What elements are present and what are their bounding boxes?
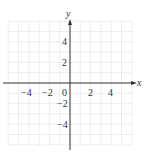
x-axis-label: x <box>136 77 142 88</box>
coordinate-grid: x y −4 −2 0 2 4 4 2 −2 −4 <box>0 0 146 153</box>
x-tick-0: 0 <box>62 87 67 98</box>
y-axis-arrow-icon <box>68 19 72 25</box>
y-tick-4: 4 <box>62 36 67 47</box>
x-tick-4: 4 <box>108 87 113 98</box>
y-tick-neg4: −4 <box>57 119 68 130</box>
y-axis-label: y <box>65 8 71 19</box>
x-tick-2: 2 <box>88 87 93 98</box>
y-tick-2: 2 <box>62 57 67 68</box>
y-tick-neg2: −2 <box>57 98 68 109</box>
x-tick-neg4: −4 <box>21 87 32 98</box>
x-tick-neg2: −2 <box>42 87 53 98</box>
